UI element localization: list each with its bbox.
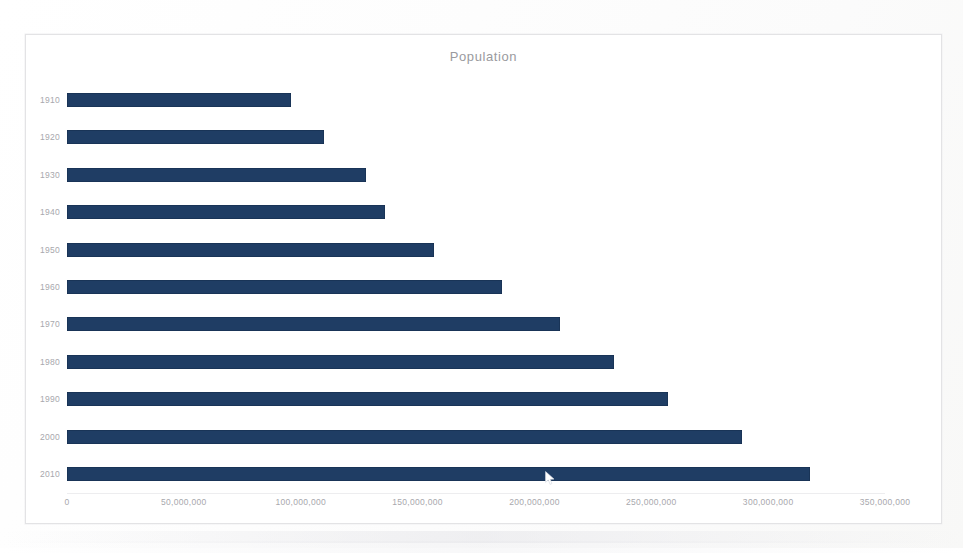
bar-row: 2000: [67, 418, 885, 455]
x-axis-line: [67, 493, 885, 494]
x-axis-tick-label: 250,000,000: [626, 497, 677, 507]
bar-1950[interactable]: [67, 243, 434, 257]
bar-1920[interactable]: [67, 130, 324, 144]
bar-row: 1970: [67, 306, 885, 343]
x-axis-tick-label: 50,000,000: [161, 497, 207, 507]
y-axis-tick-label: 1980: [40, 357, 60, 367]
bar-1980[interactable]: [67, 355, 614, 369]
plot-area: 1910192019301940195019601970198019902000…: [67, 81, 885, 493]
bar-1970[interactable]: [67, 317, 560, 331]
bar-row: 1960: [67, 268, 885, 305]
bar-row: 1980: [67, 343, 885, 380]
y-axis-tick-label: 1990: [40, 394, 60, 404]
x-axis-tick-label: 0: [64, 497, 69, 507]
bar-1910[interactable]: [67, 93, 291, 107]
x-axis-tick-label: 100,000,000: [275, 497, 326, 507]
bar-row: 2010: [67, 456, 885, 493]
bar-row: 1910: [67, 81, 885, 118]
bar-2010[interactable]: [67, 467, 810, 481]
y-axis-tick-label: 1930: [40, 170, 60, 180]
y-axis-tick-label: 1940: [40, 207, 60, 217]
scan-artifact-band: [0, 541, 963, 553]
y-axis-tick-label: 1970: [40, 319, 60, 329]
bar-1940[interactable]: [67, 205, 385, 219]
bar-row: 1990: [67, 381, 885, 418]
x-axis-tick-label: 200,000,000: [509, 497, 560, 507]
y-axis-tick-label: 1960: [40, 282, 60, 292]
bar-1930[interactable]: [67, 168, 366, 182]
bar-row: 1940: [67, 193, 885, 230]
x-axis-tick-label: 300,000,000: [743, 497, 794, 507]
y-axis-tick-label: 1910: [40, 95, 60, 105]
y-axis-tick-label: 2010: [40, 469, 60, 479]
y-axis-tick-label: 1950: [40, 245, 60, 255]
chart-frame: Population 19101920193019401950196019701…: [25, 34, 942, 524]
bar-2000[interactable]: [67, 430, 742, 444]
y-axis-tick-label: 2000: [40, 432, 60, 442]
bar-1990[interactable]: [67, 392, 668, 406]
x-axis-tick-label: 350,000,000: [860, 497, 911, 507]
chart-title: Population: [26, 49, 941, 64]
bar-row: 1950: [67, 231, 885, 268]
bar-1960[interactable]: [67, 280, 502, 294]
y-axis-tick-label: 1920: [40, 132, 60, 142]
x-axis-tick-labels: 050,000,000100,000,000150,000,000200,000…: [67, 497, 885, 517]
scan-artifact-band: [0, 531, 963, 543]
bar-row: 1920: [67, 118, 885, 155]
bar-row: 1930: [67, 156, 885, 193]
x-axis-tick-label: 150,000,000: [392, 497, 443, 507]
